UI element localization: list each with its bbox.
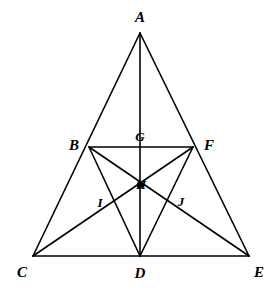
vertex-label-d: D [135, 266, 146, 281]
vertex-label-g: G [135, 130, 144, 143]
figure-background [0, 0, 273, 303]
geometry-figure: A B C D E F G H I J [0, 0, 273, 303]
vertex-label-f: F [204, 138, 214, 153]
vertex-label-c: C [17, 265, 27, 280]
vertex-label-i: I [97, 196, 102, 209]
vertex-label-h: H [136, 178, 146, 191]
vertex-label-e: E [254, 265, 264, 280]
vertex-label-b: B [69, 138, 79, 153]
vertex-label-j: J [178, 195, 185, 208]
vertex-label-a: A [135, 10, 145, 25]
geometry-canvas [0, 0, 273, 303]
